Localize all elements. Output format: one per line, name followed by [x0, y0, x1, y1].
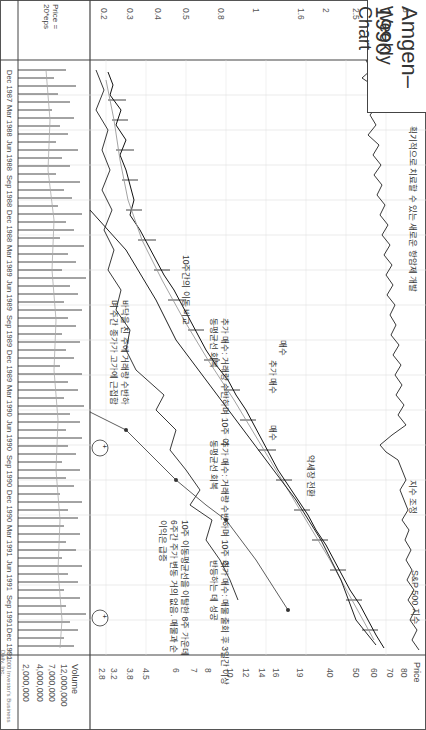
month-label: Mar 1988 [5, 105, 14, 137]
month-label: Mar 1991 [5, 525, 14, 557]
month-label: Dec 1989 [5, 350, 14, 382]
right-tick: 12 [241, 668, 251, 677]
left-tick: 1.6 [296, 8, 306, 20]
right-tick: 2.8 [97, 668, 107, 680]
annotation-add-buy3: 추가 매수: 거래량 수반하며 10주 이동평균선 회복 [208, 440, 230, 570]
annotation-add-buy2: 추가 매수: 거래량 수반하며 10주 이동평균선 회복 [208, 318, 230, 448]
annotation-buy2: 매수 [267, 425, 278, 441]
annotation-base-breakout: 바닥을 친 주에 거래량 수반하며 주간 종가가 고가에 근접함 [108, 300, 130, 410]
left-tick: 0.3 [125, 8, 135, 20]
left-tick: 0.8 [216, 8, 226, 20]
right-tick: 3.8 [125, 668, 135, 680]
volume-tick: 4,000,000 [35, 664, 45, 702]
right-tick: 80 [399, 668, 409, 677]
month-label: Dec 1987 [5, 70, 14, 102]
month-label: Jun 1988 [5, 140, 14, 171]
left-tick: 0.2 [99, 8, 109, 20]
month-label: Sep 1990 [5, 455, 14, 487]
chart-title-box: Amgen–1990 Weekly Chart [367, 0, 426, 113]
copyright-credit: © 2000 Investor's Business Daily, Inc. [0, 650, 12, 730]
volume-tick: 12,000,000 [59, 664, 69, 707]
volume-header: Volume [70, 664, 80, 694]
month-label: Dec 1991 [5, 628, 14, 660]
month-label: Sep 1991 [5, 595, 14, 627]
annotation-volume-drop: 10주 이동평균선을 이탈한 8주 가운데 6주간 주가 변동 거의 없음. 매… [157, 520, 190, 660]
right-tick: 50 [351, 668, 361, 677]
left-tick: 3 [401, 8, 411, 13]
left-tick: 2 [321, 8, 331, 13]
right-tick: 16 [271, 668, 281, 677]
annotation-add-buy1: 추가 매수 [267, 360, 278, 394]
month-label: Mar 1989 [5, 245, 14, 277]
right-tick: 6 [171, 668, 181, 673]
left-axis-header: Price = 20*eps [42, 4, 60, 56]
left-tick: 2.5 [351, 8, 361, 20]
month-label: Jun 1989 [5, 280, 14, 311]
right-tick: 7 [189, 668, 199, 673]
earnings-marker: + [99, 444, 110, 449]
right-tick: 60 [369, 668, 379, 677]
earnings-marker: + [99, 614, 110, 619]
month-label: Jun 1990 [5, 420, 14, 451]
annotation-bearish-turn: 약세장 전환 [305, 455, 316, 497]
rotated-chart-stage: Amgen–1990 Weekly Chart Price = 20*eps P… [0, 0, 426, 730]
annotation-market-correction: 지수 조정 [407, 480, 418, 514]
right-tick: 19 [295, 668, 305, 677]
right-axis-header: Price [412, 662, 422, 683]
left-tick: 0.5 [181, 8, 191, 20]
right-tick: 14 [257, 668, 267, 677]
annotation-add-buy-breakout: 추가 매수: 매물 출회 후 3일간 이상 반등하는 데 성공 [208, 560, 230, 690]
chart-subtitle: Weekly Chart [354, 6, 396, 112]
left-tick: 1 [251, 8, 261, 13]
annotation-new-product: 획기적으로 치료할 수 있는 새로운 항암제 개발 [407, 126, 418, 292]
month-label: Dec 1988 [5, 210, 14, 242]
annotation-ten-week-compare: 10주간의 이동 비교 [180, 255, 191, 325]
month-label: Sep 1989 [5, 315, 14, 347]
month-label: Jun 1991 [5, 560, 14, 591]
month-label: Dec 1990 [5, 490, 14, 522]
left-tick: 0.4 [153, 8, 163, 20]
right-tick: 70 [385, 668, 395, 677]
right-tick: 40 [325, 668, 335, 677]
volume-tick: 7,000,000 [47, 664, 57, 702]
month-label: Mar 1990 [5, 385, 14, 417]
right-tick: 3.2 [109, 668, 119, 680]
volume-tick: 2,000,000 [21, 664, 31, 702]
right-tick: 4.5 [141, 668, 151, 680]
month-label: Sep 1988 [5, 175, 14, 207]
sp500-label: S&P 500 지수 [409, 570, 422, 624]
annotation-buy1: 매수 [277, 340, 288, 356]
